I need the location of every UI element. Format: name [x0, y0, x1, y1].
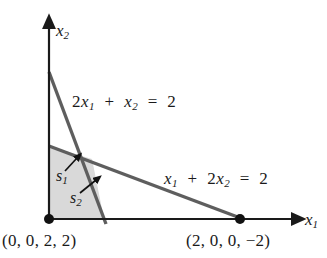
slack-label-s1: s1 [56, 168, 68, 184]
x-axis-vertex-dot [235, 214, 245, 224]
plot-canvas [0, 0, 327, 258]
vertex-label-origin: (0, 0, 2, 2) [2, 232, 76, 249]
equation-label-2x1-plus-x2: 2x1 + x2 = 2 [72, 93, 176, 110]
equation-label-x1-plus-2x2: x1 + 2x2 = 2 [164, 170, 268, 187]
feasible-region-figure: x2 x1 2x1 + x2 = 2 x1 + 2x2 = 2 s1 s2 (0… [0, 0, 327, 258]
slack-label-s2: s2 [70, 190, 82, 206]
vertex-label-x-axis: (2, 0, 0, −2) [186, 232, 270, 249]
x-axis-label: x1 [305, 211, 318, 228]
y-axis-label: x2 [56, 22, 69, 39]
origin-vertex-dot [44, 214, 54, 224]
